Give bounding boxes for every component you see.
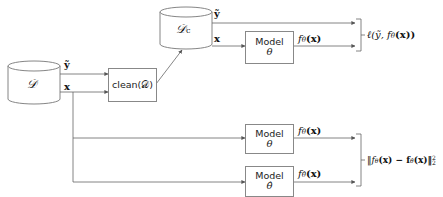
clean-dataset-subscript: c (186, 26, 190, 35)
model-theta-hat-param: θ̂ (266, 181, 272, 192)
clean-dataset-label: 𝒟c (176, 22, 190, 36)
dataset-label: 𝒟 (27, 77, 37, 91)
distillation-loss-expression: ‖fθ(x) − fθ̂(x)‖22 (367, 155, 436, 166)
dataset-y-label: ỹ (64, 60, 70, 70)
f-theta-top-label: fθ(x) (298, 34, 321, 44)
f-theta-hat-label: fθ̂(x) (298, 169, 321, 179)
clean-dataset-x-label: x (214, 34, 220, 44)
clean-function-label: clean(𝒟) (112, 80, 153, 90)
clean-dataset-symbol: 𝒟 (176, 22, 186, 36)
f-theta-mid-label: fθ(x) (298, 126, 321, 136)
loss-expression: ℓ(ỹ, fθ(x)) (367, 30, 415, 40)
model-theta-top-box: Model θ (245, 31, 294, 64)
clean-dataset-y-label: ỹ (214, 9, 220, 19)
model-theta-hat-box: Model θ̂ (245, 166, 294, 197)
model-theta-mid-param: θ (266, 139, 272, 150)
dataset-x-label: x (64, 82, 70, 92)
model-theta-top-param: θ (266, 47, 272, 58)
clean-function-box: clean(𝒟) (108, 68, 157, 102)
model-theta-mid-box: Model θ (245, 124, 294, 154)
